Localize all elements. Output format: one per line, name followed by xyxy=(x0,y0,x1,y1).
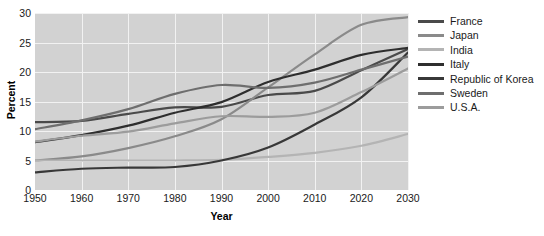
legend-item[interactable]: Republic of Korea xyxy=(418,72,544,86)
y-tick-label: 5 xyxy=(3,156,31,167)
legend-swatch-icon xyxy=(418,63,444,66)
x-tick-label: 1960 xyxy=(59,193,105,204)
plot-area xyxy=(35,13,408,190)
series-lines xyxy=(35,13,408,190)
y-axis-title: Percent xyxy=(5,70,17,130)
legend: FranceJapanIndiaItalyRepublic of KoreaSw… xyxy=(418,14,544,115)
y-tick-label: 25 xyxy=(3,38,31,49)
legend-swatch-icon xyxy=(418,20,444,23)
x-tick-label: 1970 xyxy=(105,193,151,204)
legend-item-label: Japan xyxy=(450,30,479,41)
x-axis-title: Year xyxy=(35,210,408,222)
legend-item-label: India xyxy=(450,45,473,56)
x-tick-label: 1980 xyxy=(152,193,198,204)
x-tick-label: 2010 xyxy=(292,193,338,204)
gridline-vertical xyxy=(408,13,409,190)
legend-item[interactable]: Sweden xyxy=(418,86,544,100)
legend-item[interactable]: U.S.A. xyxy=(418,100,544,114)
legend-item-label: Italy xyxy=(450,59,469,70)
series-line xyxy=(35,48,408,142)
series-line xyxy=(35,134,408,161)
legend-swatch-icon xyxy=(418,34,444,37)
legend-swatch-icon xyxy=(418,92,444,95)
legend-swatch-icon xyxy=(418,106,444,109)
legend-item[interactable]: India xyxy=(418,43,544,57)
x-tick-label: 2030 xyxy=(385,193,431,204)
legend-item[interactable]: France xyxy=(418,14,544,28)
legend-item-label: France xyxy=(450,16,483,27)
legend-swatch-icon xyxy=(418,48,444,51)
legend-item-label: Sweden xyxy=(450,88,488,99)
legend-item[interactable]: Japan xyxy=(418,28,544,42)
chart-page: 051015202530 Percent Year FranceJapanInd… xyxy=(0,0,544,236)
legend-swatch-icon xyxy=(418,77,444,80)
series-line xyxy=(35,17,408,160)
legend-item-label: Republic of Korea xyxy=(450,74,533,85)
x-tick-label: 2020 xyxy=(338,193,384,204)
x-tick-label: 1950 xyxy=(12,193,58,204)
x-tick-label: 2000 xyxy=(245,193,291,204)
y-tick-label: 30 xyxy=(3,8,31,19)
legend-item[interactable]: Italy xyxy=(418,57,544,71)
x-tick-label: 1990 xyxy=(199,193,245,204)
legend-item-label: U.S.A. xyxy=(450,102,480,113)
